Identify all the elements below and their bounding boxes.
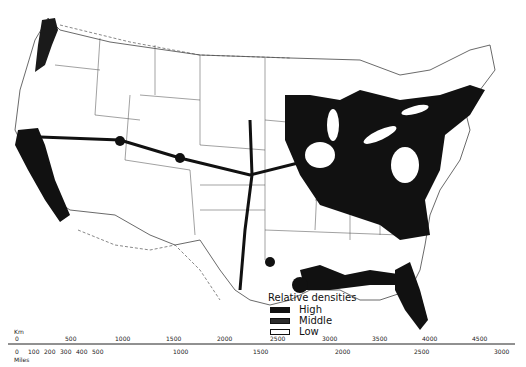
population-density-map	[0, 0, 526, 367]
miles-label: Miles	[14, 356, 29, 363]
legend-item-middle: Middle	[268, 315, 356, 326]
lake-michigan	[327, 109, 339, 141]
legend-swatch-high	[270, 307, 290, 313]
legend-title: Relative densities	[268, 292, 356, 303]
legend-swatch-middle	[270, 318, 290, 324]
scale-bar-labels: Km 0 500 1000 1500 2000 2500 3000 3500 4…	[0, 328, 526, 367]
interior-low-area	[305, 142, 335, 168]
houston-density	[292, 277, 308, 293]
km-label: Km	[14, 328, 24, 335]
appalachian-low-area	[391, 147, 419, 183]
dallas-density	[265, 257, 275, 267]
legend-item-high: High	[268, 304, 356, 315]
florida-density	[395, 262, 428, 330]
